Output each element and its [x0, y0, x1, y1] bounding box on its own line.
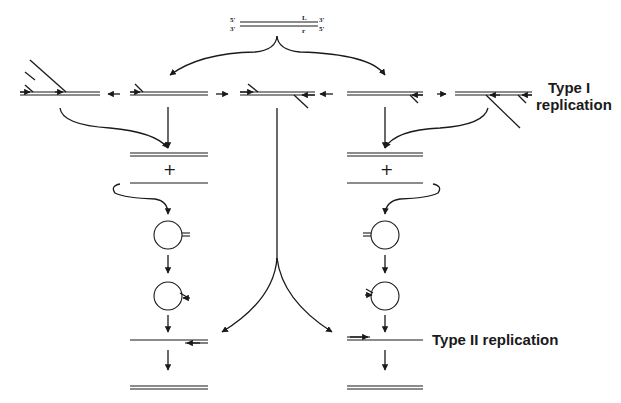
type-ii-label: Type II replication — [432, 331, 558, 348]
intermediate-left — [130, 84, 208, 95]
strand-r-label: r — [302, 27, 305, 35]
top-left-end-label: 5' — [230, 16, 236, 24]
intermediate-far-right — [455, 92, 532, 128]
strand-l-label: L — [302, 14, 307, 22]
right-column: + Type II replication — [347, 107, 558, 389]
type-i-label-line1: Type I — [548, 79, 590, 96]
bottom-right-end-label: 5' — [319, 25, 325, 33]
intermediate-right — [347, 92, 423, 103]
parent-duplex: 5' 3' 3' 5' L r — [230, 14, 325, 35]
top-right-end-label: 3' — [319, 16, 325, 24]
type-i-intermediates-row: Type I replication — [20, 60, 612, 128]
circular-dna-right-2 — [371, 282, 399, 310]
plus-sign-right: + — [380, 160, 393, 179]
circular-dna-left-1 — [154, 221, 182, 249]
circular-dna-right-1 — [371, 221, 399, 249]
bottom-left-end-label: 3' — [230, 25, 236, 33]
type-i-label-line2: replication — [536, 96, 612, 113]
circular-dna-left-2 — [154, 282, 182, 310]
intermediate-far-left — [20, 60, 100, 95]
plus-sign-left: + — [163, 160, 176, 179]
dna-replication-diagram: 5' 3' 3' 5' L r — [0, 0, 621, 403]
intermediate-center — [240, 84, 315, 108]
brace-arrows — [170, 36, 385, 75]
type-ii-pathway — [222, 108, 332, 332]
left-column: + — [60, 107, 208, 389]
